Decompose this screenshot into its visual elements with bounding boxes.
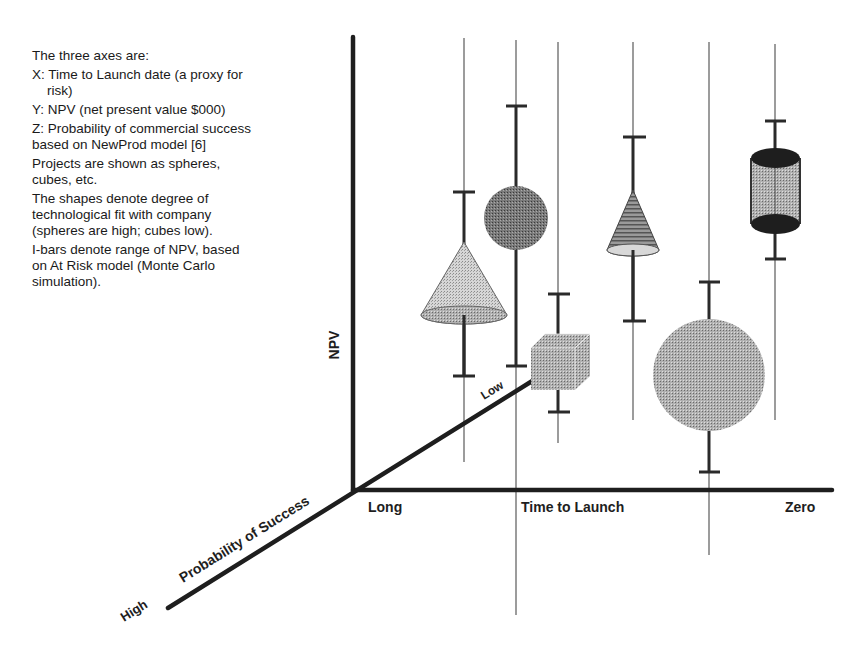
- project-sphere-dark: [484, 186, 548, 250]
- x-axis-label: Time to Launch: [521, 499, 624, 515]
- x-axis-end-label: Zero: [785, 499, 815, 515]
- y-axis-label: NPV: [326, 330, 342, 359]
- diagram-canvas: NPV Long Time to Launch Zero Probability…: [0, 0, 858, 649]
- project-cube: [531, 334, 590, 390]
- z-axis-near-label: High: [118, 596, 150, 624]
- z-axis-label: Probability of Success: [176, 492, 312, 585]
- x-axis-start-label: Long: [368, 499, 402, 515]
- project-sphere-large: [653, 319, 765, 431]
- project-cone-light: [421, 242, 507, 376]
- project-cone-striped: [607, 190, 659, 321]
- project-cylinder: [751, 148, 800, 234]
